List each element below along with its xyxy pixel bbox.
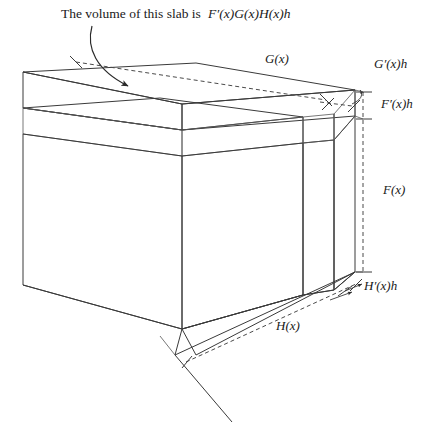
product-rule-box-diagram: The volume of this slab is F′(x)G(x)H(x)… [0,0,443,429]
label-f-prime-h: F′(x)h [380,96,413,111]
top-slab [23,72,355,156]
caption-expression: F′(x)G(x)H(x)h [207,6,291,21]
h-prime-leader [330,284,362,300]
caption-prefix: The volume of this slab is [61,6,201,21]
label-g-prime-h: G′(x)h [374,56,407,71]
vertical-dimension-line [355,90,372,272]
label-f-of-x: F(x) [382,182,405,197]
main-box-body [23,134,303,329]
label-h-of-x: H(x) [275,318,300,333]
label-g-of-x: G(x) [265,51,289,66]
figure-container: The volume of this slab is F′(x)G(x)H(x)… [0,0,443,429]
label-h-prime-h: H′(x)h [363,278,397,293]
outer-box-top-face [23,63,355,104]
h-depth-dashed-guide [182,279,362,368]
front-bottom-slab [23,272,355,422]
caption-arrow [90,26,128,86]
right-slab [303,90,355,295]
